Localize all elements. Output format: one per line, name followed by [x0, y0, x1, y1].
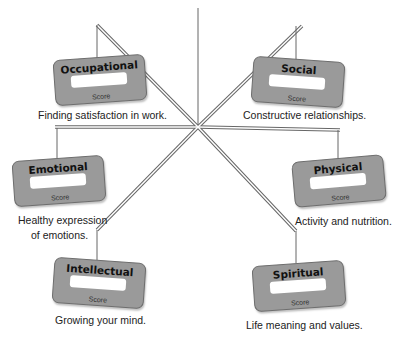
emotional-description-line2: of emotions.	[31, 228, 88, 242]
occupational-score-input[interactable]	[71, 72, 128, 88]
spiritual-description: Life meaning and values.	[246, 318, 363, 332]
physical-description: Activity and nutrition.	[295, 214, 392, 228]
spiritual-card: Spiritual Score	[252, 260, 347, 312]
occupational-card: Occupational Score	[53, 54, 148, 106]
social-score-input[interactable]	[269, 74, 326, 90]
intellectual-description: Growing your mind.	[55, 313, 146, 327]
emotional-description-line1: Healthy expression	[18, 213, 107, 227]
intellectual-card: Intellectual Score	[52, 257, 147, 309]
social-description: Constructive relationships.	[243, 108, 366, 122]
emotional-card: Emotional Score	[12, 155, 107, 207]
intellectual-score-input[interactable]	[70, 275, 127, 291]
emotional-score-input[interactable]	[30, 173, 87, 189]
social-card: Social Score	[251, 56, 346, 108]
physical-card: Physical Score	[291, 154, 387, 208]
spiritual-score-input[interactable]	[270, 278, 327, 294]
occupational-description: Finding satisfaction in work.	[38, 108, 167, 122]
